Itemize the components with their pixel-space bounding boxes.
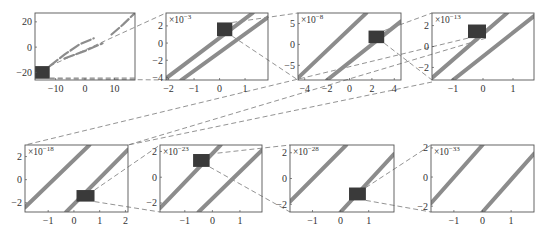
x-tick-label: 0 bbox=[83, 83, 88, 94]
y-tick-label: −5 bbox=[284, 60, 295, 71]
x-tick-label: −1 bbox=[189, 83, 200, 94]
zoom-box bbox=[349, 188, 366, 201]
panel-8: −10120−2×10−33 bbox=[417, 142, 534, 226]
zoom-box bbox=[468, 25, 486, 39]
curve-line-2 bbox=[341, 154, 394, 212]
y-tick-label: −2 bbox=[11, 197, 22, 208]
curve-line-2 bbox=[327, 21, 401, 80]
x-tick-label: 0 bbox=[217, 83, 222, 94]
y-tick-label: 0 bbox=[290, 39, 295, 50]
y-tick-label: −2 bbox=[146, 197, 157, 208]
x-tick-label: −1 bbox=[179, 215, 190, 226]
zoom-cascade-figure: −10010200−20−2−10120−2−4×10−3−4−202450−5… bbox=[0, 0, 549, 235]
x-tick-label: −2 bbox=[322, 83, 333, 94]
panel-2: −2−10120−2−4×10−3 bbox=[152, 13, 268, 94]
axes-frame bbox=[35, 13, 135, 80]
panel-5: −101220−2×10−18 bbox=[11, 145, 128, 226]
scale-factor-label: ×10−13 bbox=[435, 13, 461, 25]
y-tick-label: −4 bbox=[152, 72, 163, 83]
x-tick-label: 10 bbox=[109, 83, 119, 94]
y-tick-label: 2 bbox=[17, 151, 22, 162]
panel-1: −10010200−20 bbox=[16, 13, 135, 94]
y-tick-label: −20 bbox=[16, 67, 32, 78]
x-tick-label: 0 bbox=[71, 215, 76, 226]
curve-branch-a bbox=[50, 38, 94, 66]
x-tick-label: 2 bbox=[123, 215, 128, 226]
scale-factor-label: ×10−18 bbox=[28, 145, 54, 157]
curve-branch-c bbox=[112, 13, 136, 35]
zoom-box bbox=[35, 66, 50, 79]
zoom-box bbox=[217, 22, 232, 36]
y-tick-label: 0 bbox=[282, 173, 287, 184]
x-tick-label: 1 bbox=[97, 215, 102, 226]
x-tick-label: 2 bbox=[369, 83, 374, 94]
scale-factor-label: ×10−8 bbox=[301, 13, 324, 25]
y-tick-label: 0 bbox=[423, 172, 428, 183]
y-tick-label: 0 bbox=[158, 38, 163, 49]
x-tick-label: 0 bbox=[338, 215, 343, 226]
x-tick-label: 0 bbox=[480, 215, 485, 226]
y-tick-label: 2 bbox=[424, 20, 429, 31]
zoom-box bbox=[77, 190, 95, 202]
y-tick-label: 0 bbox=[152, 172, 157, 183]
x-tick-label: −10 bbox=[48, 83, 64, 94]
x-tick-label: −4 bbox=[299, 83, 310, 94]
scale-factor-label: ×10−3 bbox=[169, 13, 192, 25]
panel-7: −10120−2×10−28 bbox=[276, 145, 394, 226]
x-tick-label: −1 bbox=[449, 215, 460, 226]
zoom-box bbox=[369, 31, 385, 44]
zoom-connector-line bbox=[366, 145, 431, 188]
y-tick-label: −2 bbox=[276, 199, 287, 210]
y-tick-label: 0 bbox=[424, 41, 429, 52]
x-tick-label: −1 bbox=[43, 215, 54, 226]
zoom-box bbox=[193, 154, 210, 167]
scale-factor-label: ×10−23 bbox=[163, 145, 189, 157]
y-tick-label: 2 bbox=[282, 147, 287, 158]
x-tick-label: 1 bbox=[237, 215, 242, 226]
x-tick-label: 0 bbox=[347, 83, 352, 94]
y-tick-label: 0 bbox=[17, 174, 22, 185]
y-tick-label: 2 bbox=[152, 146, 157, 157]
y-tick-label: 5 bbox=[290, 18, 295, 29]
x-tick-label: 0 bbox=[481, 83, 486, 94]
x-tick-label: 1 bbox=[243, 83, 248, 94]
y-tick-label: −2 bbox=[418, 62, 429, 73]
scale-factor-label: ×10−28 bbox=[293, 145, 319, 157]
curve-line-2 bbox=[483, 154, 535, 212]
y-tick-label: 0 bbox=[27, 42, 32, 53]
scale-factor-label: ×10−33 bbox=[434, 145, 460, 157]
y-tick-label: 2 bbox=[423, 142, 428, 153]
panel-6: −10120−2×10−23 bbox=[146, 145, 262, 226]
zoom-connector-line bbox=[232, 36, 298, 80]
x-tick-label: −1 bbox=[448, 83, 459, 94]
x-tick-label: 0 bbox=[210, 215, 215, 226]
x-tick-label: 4 bbox=[392, 83, 397, 94]
x-tick-label: 1 bbox=[509, 215, 514, 226]
x-tick-label: 1 bbox=[366, 215, 371, 226]
x-tick-label: 1 bbox=[511, 83, 516, 94]
x-tick-label: −1 bbox=[307, 215, 318, 226]
y-tick-label: 20 bbox=[22, 16, 32, 27]
y-tick-label: −2 bbox=[417, 201, 428, 212]
panel-3: −4−202450−5×10−8 bbox=[284, 13, 401, 94]
y-tick-label: 2 bbox=[158, 20, 163, 31]
y-tick-label: −2 bbox=[152, 55, 163, 66]
panels: −10010200−20−2−10120−2−4×10−3−4−202450−5… bbox=[11, 13, 534, 226]
x-tick-label: −2 bbox=[163, 83, 174, 94]
